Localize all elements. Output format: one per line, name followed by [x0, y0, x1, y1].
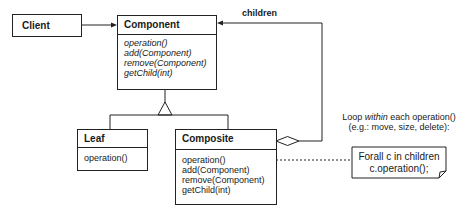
leaf-class-box: Leaf operation()	[77, 129, 148, 171]
client-class-name: Client	[13, 15, 81, 31]
component-method: operation()	[124, 38, 216, 48]
composite-method: getChild(int)	[182, 185, 276, 195]
loop-annotation-line1: Loop within each operation()	[339, 112, 459, 122]
leaf-method: operation()	[84, 153, 147, 163]
children-label: children	[242, 8, 277, 18]
loop-annotation-line2: (e.g.: move, size, delete):	[339, 122, 459, 132]
note-line2: c.operation();	[352, 163, 446, 175]
annotation-prefix: Loop	[342, 112, 365, 122]
note-text: Forall c in children c.operation();	[352, 151, 446, 175]
client-class-box: Client	[12, 14, 82, 37]
component-method: getChild(int)	[124, 68, 216, 78]
composite-method: remove(Component)	[182, 175, 276, 185]
children-association-line	[220, 23, 322, 141]
composite-class-box: Composite operation() add(Component) rem…	[175, 129, 277, 205]
composite-class-name: Composite	[176, 130, 276, 150]
inheritance-triangle-icon	[158, 102, 172, 115]
component-class-box: Component operation() add(Component) rem…	[117, 15, 217, 90]
composite-method: add(Component)	[182, 165, 276, 175]
note-line1: Forall c in children	[352, 151, 446, 163]
annotation-suffix: each operation()	[388, 112, 456, 122]
annotation-emphasis: within	[365, 112, 388, 122]
leaf-class-name: Leaf	[78, 130, 147, 148]
aggregation-diamond-icon	[276, 137, 299, 146]
composite-method: operation()	[182, 155, 276, 165]
component-method: add(Component)	[124, 48, 216, 58]
leaf-methods: operation()	[78, 148, 147, 163]
composite-methods: operation() add(Component) remove(Compon…	[176, 150, 276, 195]
component-method: remove(Component)	[124, 58, 216, 68]
component-class-name: Component	[118, 16, 216, 35]
component-methods: operation() add(Component) remove(Compon…	[118, 35, 216, 78]
loop-annotation: Loop within each operation() (e.g.: move…	[339, 112, 459, 132]
children-arrowhead-icon	[217, 21, 223, 26]
